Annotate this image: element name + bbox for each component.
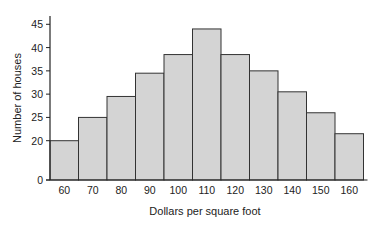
y-tick-label: 20 bbox=[31, 135, 43, 147]
x-tick-label: 150 bbox=[312, 184, 330, 196]
x-tick-label: 70 bbox=[87, 184, 99, 196]
x-tick-label: 160 bbox=[340, 184, 358, 196]
histogram-bar bbox=[136, 73, 165, 180]
histogram-bar bbox=[278, 92, 307, 180]
y-tick-label: 0 bbox=[37, 174, 43, 186]
x-tick-label: 100 bbox=[169, 184, 187, 196]
histogram-bar bbox=[193, 29, 222, 180]
y-tick-label: 30 bbox=[31, 88, 43, 100]
x-tick-label: 90 bbox=[144, 184, 156, 196]
histogram-bar bbox=[107, 96, 136, 180]
y-tick-label: 40 bbox=[31, 42, 43, 54]
histogram-bar bbox=[164, 55, 193, 180]
x-tick-label: 130 bbox=[255, 184, 273, 196]
x-tick-label: 80 bbox=[115, 184, 127, 196]
y-tick-label: 35 bbox=[31, 65, 43, 77]
x-axis-label: Dollars per square foot bbox=[50, 205, 360, 217]
histogram-chart: 6070809010011012013014015016002025303540… bbox=[0, 0, 376, 225]
y-tick-label: 45 bbox=[31, 18, 43, 30]
histogram-bar bbox=[221, 55, 250, 180]
histogram-bar bbox=[250, 71, 279, 180]
histogram-bar bbox=[335, 134, 364, 180]
plot-area: 6070809010011012013014015016002025303540… bbox=[0, 0, 376, 225]
histogram-bar bbox=[79, 117, 108, 180]
x-tick-label: 140 bbox=[283, 184, 301, 196]
histogram-bar bbox=[50, 141, 79, 180]
histogram-bar bbox=[307, 113, 336, 180]
x-tick-label: 110 bbox=[198, 184, 215, 196]
y-axis-label: Number of houses bbox=[11, 43, 23, 153]
x-tick-label: 60 bbox=[58, 184, 70, 196]
x-tick-label: 120 bbox=[226, 184, 244, 196]
y-tick-label: 25 bbox=[31, 111, 43, 123]
